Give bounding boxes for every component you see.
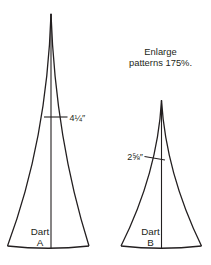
- dart-b-name-line1: Dart: [141, 226, 160, 237]
- dart-b-left-edge: [121, 101, 162, 247]
- dart-a: 4¼″ Dart A: [8, 14, 90, 249]
- dart-a-name-line2: A: [37, 237, 44, 248]
- instruction-line-2: patterns 175%.: [129, 57, 192, 68]
- instruction-line-1: Enlarge: [144, 46, 176, 57]
- dart-b: 2⅝″ Dart B: [121, 100, 202, 248]
- dart-a-right-edge: [51, 14, 89, 246]
- dart-a-measurement-label: 4¼″: [70, 113, 87, 123]
- dart-a-name-line1: Dart: [31, 226, 50, 237]
- enlarge-instruction: Enlarge patterns 175%.: [129, 46, 192, 68]
- dart-a-left-edge: [8, 14, 52, 246]
- dart-b-name-line2: B: [147, 237, 154, 248]
- dart-a-bottom-edge: [8, 246, 90, 248]
- dart-b-measurement-label: 2⅝″: [127, 152, 144, 162]
- dart-b-right-edge: [162, 101, 202, 247]
- dart-diagram-canvas: 4¼″ Dart A 2⅝″ Dart B Enlarge patterns 1…: [0, 0, 211, 265]
- dart-pattern-diagram: 4¼″ Dart A 2⅝″ Dart B Enlarge patterns 1…: [0, 0, 211, 265]
